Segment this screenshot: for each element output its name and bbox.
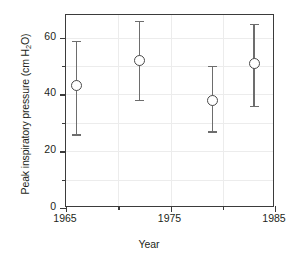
y-axis-tick-label: 20 [28,143,56,155]
plot-area [65,14,274,207]
x-axis-title: Year [0,238,298,250]
y-axis-tick-label: 40 [28,86,56,98]
data-point-marker [249,58,260,69]
gridline-horizontal [66,151,273,152]
error-bar-cap-upper [135,21,144,22]
error-bar-cap-lower [208,131,217,132]
data-point-marker [71,80,82,91]
y-axis-tick-label: 0 [28,200,56,212]
chart-figure: Peak inspiratory pressure (cm H2O) Year … [0,0,298,261]
error-bar-cap-lower [135,100,144,101]
y-axis-tick-minor [62,123,66,124]
error-bar-cap-lower [250,106,259,107]
gridline-horizontal [66,94,273,95]
y-axis-tick-label: 60 [28,30,56,42]
gridline-vertical [171,15,172,206]
x-axis-tick-label: 1975 [150,212,190,224]
error-bar-cap-upper [250,24,259,25]
gridline-horizontal [66,38,273,39]
data-point-marker [134,55,145,66]
x-axis-tick-label: 1985 [254,212,294,224]
y-axis-tick-minor [62,66,66,67]
gridline-vertical [223,15,224,206]
y-axis-tick-major [60,94,66,95]
error-bar-cap-upper [208,66,217,67]
x-axis-tick-minor [223,206,224,210]
y-axis-tick-major [60,38,66,39]
error-bar-cap-lower [72,134,81,135]
y-axis-tick-minor [62,180,66,181]
error-bar-cap-upper [72,41,81,42]
y-axis-title-text: Peak inspiratory pressure (cm H [19,49,31,194]
y-axis-title-subscript: 2 [24,45,33,49]
gridline-horizontal [66,66,273,67]
x-axis-tick-minor [118,206,119,210]
x-axis-tick-label: 1965 [45,212,85,224]
y-axis-title: Peak inspiratory pressure (cm H2O) [19,19,31,209]
y-axis-tick-major [60,151,66,152]
data-point-marker [207,95,218,106]
gridline-horizontal [66,180,273,181]
gridline-vertical [118,15,119,206]
gridline-horizontal [66,123,273,124]
